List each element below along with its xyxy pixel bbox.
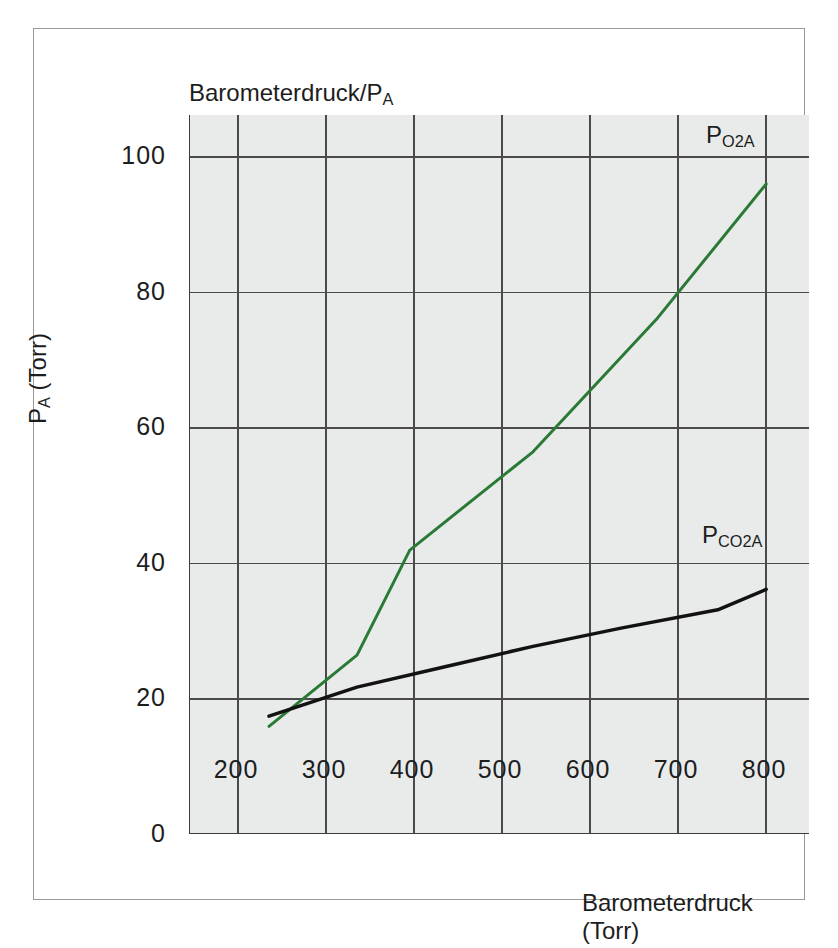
plot-top-title: Barometerdruck/PA (189, 79, 393, 109)
x-tick-label: 800 (729, 755, 799, 784)
y-tick-label: 40 (86, 548, 166, 577)
y-tick-label: 60 (86, 412, 166, 441)
x-tick-label: 200 (201, 755, 271, 784)
y-tick-label: 80 (86, 277, 166, 306)
x-gridline (765, 115, 767, 833)
x-tick-label: 500 (465, 755, 535, 784)
x-gridline (325, 115, 327, 833)
y-tick-label: 20 (86, 683, 166, 712)
y-gridline (190, 698, 809, 700)
x-tick-label: 600 (553, 755, 623, 784)
y-tick-label: 0 (86, 819, 166, 848)
x-gridline (237, 115, 239, 833)
y-axis-label-main: P (24, 408, 51, 424)
x-gridline (413, 115, 415, 833)
top-title-subscript: A (382, 90, 393, 108)
x-gridline (501, 115, 503, 833)
series-label-co2: PCO2A (702, 521, 762, 551)
series-label-co2-sub: CO2A (718, 532, 762, 550)
y-tick-label: 100 (86, 141, 166, 170)
top-title-text: Barometerdruck/P (189, 79, 382, 106)
series-label-o2-main: P (706, 121, 722, 148)
figure-frame: Barometerdruck/PA PA (Torr) Barometerdru… (33, 28, 805, 900)
y-gridline (190, 427, 809, 429)
y-gridline (190, 292, 809, 294)
series-label-co2-main: P (702, 521, 718, 548)
x-axis-label: Barometerdruck (Torr) (582, 889, 804, 945)
y-axis-label-unit: (Torr) (24, 333, 51, 397)
series-label-o2-sub: O2A (722, 132, 755, 150)
x-gridline (589, 115, 591, 833)
x-gridline (677, 115, 679, 833)
y-axis-label-subscript: A (35, 397, 53, 408)
y-gridline (190, 156, 809, 158)
x-tick-label: 400 (377, 755, 447, 784)
y-axis-label: PA (Torr) (24, 333, 54, 424)
x-tick-label: 700 (641, 755, 711, 784)
x-tick-label: 300 (289, 755, 359, 784)
plot-area (189, 115, 809, 834)
series-label-o2: PO2A (706, 121, 755, 151)
y-gridline (190, 563, 809, 565)
